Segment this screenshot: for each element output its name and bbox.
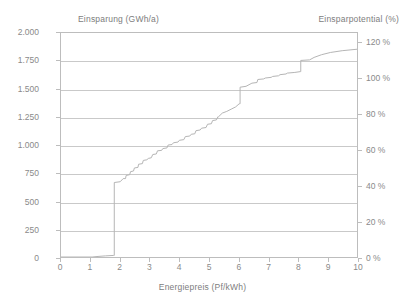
x-tickmark bbox=[358, 258, 359, 262]
series-line bbox=[61, 49, 357, 257]
y-tickmark-left bbox=[56, 117, 60, 118]
y-axis-label-left: 1.250 bbox=[0, 112, 39, 122]
x-axis-label: 0 bbox=[45, 262, 75, 272]
x-axis-label: 8 bbox=[283, 262, 313, 272]
x-axis-title: Energiepreis (Pf/kWh) bbox=[0, 282, 405, 292]
right-axis-title: Einsparpotential (%) bbox=[318, 14, 399, 24]
x-tickmark bbox=[239, 258, 240, 262]
x-axis-label: 5 bbox=[194, 262, 224, 272]
y-tickmark-right bbox=[358, 186, 362, 187]
y-tickmark-left bbox=[56, 32, 60, 33]
x-tickmark bbox=[328, 258, 329, 262]
chart-container: Einsparung (GWh/a) Einsparpotential (%) … bbox=[0, 0, 405, 304]
x-tickmark bbox=[269, 258, 270, 262]
y-axis-label-left: 1.000 bbox=[0, 140, 39, 150]
y-axis-label-right: 40 % bbox=[366, 181, 405, 191]
y-axis-label-right: 20 % bbox=[366, 217, 405, 227]
plot-area bbox=[60, 32, 358, 258]
y-axis-label-right: 100 % bbox=[366, 73, 405, 83]
x-axis-label: 7 bbox=[254, 262, 284, 272]
y-tickmark-left bbox=[56, 60, 60, 61]
x-tickmark bbox=[90, 258, 91, 262]
y-tickmark-left bbox=[56, 173, 60, 174]
x-axis-label: 2 bbox=[105, 262, 135, 272]
x-tickmark bbox=[120, 258, 121, 262]
y-axis-label-left: 2.000 bbox=[0, 27, 39, 37]
y-tickmark-right bbox=[358, 42, 362, 43]
y-axis-label-left: 1.500 bbox=[0, 84, 39, 94]
y-tickmark-left bbox=[56, 202, 60, 203]
y-axis-label-left: 500 bbox=[0, 197, 39, 207]
x-tickmark bbox=[179, 258, 180, 262]
y-tickmark-left bbox=[56, 89, 60, 90]
x-tickmark bbox=[149, 258, 150, 262]
x-tickmark bbox=[60, 258, 61, 262]
x-tickmark bbox=[209, 258, 210, 262]
y-axis-label-left: 250 bbox=[0, 225, 39, 235]
y-tickmark-right bbox=[358, 222, 362, 223]
y-tickmark-right bbox=[358, 114, 362, 115]
x-axis-label: 10 bbox=[343, 262, 373, 272]
x-axis-label: 6 bbox=[224, 262, 254, 272]
x-axis-label: 4 bbox=[164, 262, 194, 272]
x-axis-label: 3 bbox=[134, 262, 164, 272]
y-axis-label-right: 60 % bbox=[366, 145, 405, 155]
y-tickmark-right bbox=[358, 78, 362, 79]
left-axis-title: Einsparung (GWh/a) bbox=[78, 14, 159, 24]
y-tickmark-right bbox=[358, 150, 362, 151]
data-curve bbox=[61, 33, 357, 257]
x-tickmark bbox=[298, 258, 299, 262]
y-tickmark-left bbox=[56, 230, 60, 231]
y-axis-label-right: 80 % bbox=[366, 109, 405, 119]
y-axis-label-left: 750 bbox=[0, 168, 39, 178]
y-axis-label-left: 1.750 bbox=[0, 55, 39, 65]
x-axis-label: 1 bbox=[75, 262, 105, 272]
y-axis-label-left: 0 bbox=[0, 253, 39, 263]
y-axis-label-right: 120 % bbox=[366, 37, 405, 47]
y-tickmark-left bbox=[56, 145, 60, 146]
x-axis-label: 9 bbox=[313, 262, 343, 272]
